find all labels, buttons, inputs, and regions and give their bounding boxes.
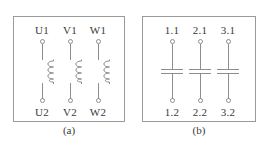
terminal-label-w1: W1 <box>78 25 118 36</box>
terminal-node-2-2 <box>198 98 203 103</box>
panel-a-coils: U1 U2 V1 V2 <box>13 16 125 122</box>
wire-segment-w-top <box>98 44 99 60</box>
wire-segment-u-top <box>42 44 43 60</box>
wire-segment-w-bottom <box>98 83 99 99</box>
schematic-figure: U1 U2 V1 V2 <box>0 0 270 142</box>
wire-segment-3-top <box>228 44 229 60</box>
terminal-node-3-2 <box>226 98 231 103</box>
capacitor-lead-lower-3 <box>228 73 229 83</box>
wire-segment-v-top <box>70 44 71 60</box>
terminal-label-w2: W2 <box>78 107 118 118</box>
wire-segment-1-top <box>172 44 173 60</box>
terminal-node-u2 <box>40 98 45 103</box>
wire-segment-2-bottom <box>200 83 201 99</box>
wire-segment-3-bottom <box>228 83 229 99</box>
branch-w: W1 W2 <box>78 17 118 123</box>
coil-symbol-w <box>98 59 110 84</box>
wire-segment-v-bottom <box>70 83 71 99</box>
capacitor-lead-lower-1 <box>172 73 173 83</box>
panel-b-capacitors: 1.1 1.2 2.1 <box>142 16 256 122</box>
caption-b: (b) <box>142 124 256 137</box>
terminal-node-w2 <box>96 98 101 103</box>
wire-segment-2-top <box>200 44 201 60</box>
capacitor-plate-upper-3 <box>217 69 239 70</box>
terminal-label-3-1: 3.1 <box>208 25 248 36</box>
terminal-label-3-2: 3.2 <box>208 107 248 118</box>
wire-segment-1-bottom <box>172 83 173 99</box>
terminal-node-v2 <box>68 98 73 103</box>
terminal-node-1-2 <box>170 98 175 103</box>
wire-segment-u-bottom <box>42 83 43 99</box>
capacitor-lead-lower-2 <box>200 73 201 83</box>
branch-3: 3.1 3.2 <box>208 17 248 123</box>
caption-a: (a) <box>13 124 125 137</box>
capacitor-symbol-3 <box>217 60 239 82</box>
